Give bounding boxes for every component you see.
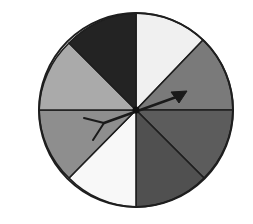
spinner-wheel (0, 0, 253, 224)
spinner-pivot (133, 107, 140, 114)
spinner-diagram (0, 0, 253, 224)
